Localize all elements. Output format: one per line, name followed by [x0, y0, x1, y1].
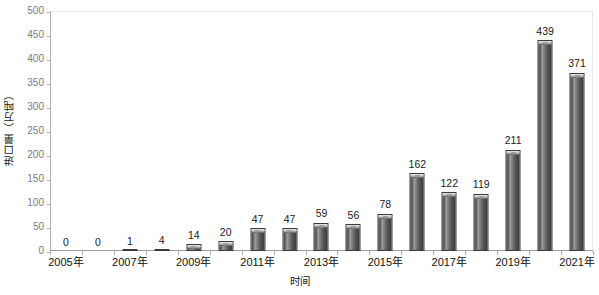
- y-axis-tick-label: 100: [27, 198, 44, 208]
- bar-value-label: 371: [568, 58, 586, 69]
- bar[interactable]: [538, 40, 553, 251]
- y-axis-tick-label: 450: [27, 30, 44, 40]
- bar-value-label: 47: [284, 214, 296, 225]
- bar[interactable]: [282, 228, 297, 251]
- bar-cap-notch-icon: [191, 246, 197, 249]
- bar-cap-notch-icon: [542, 42, 548, 45]
- bar[interactable]: [186, 244, 201, 251]
- bar-cap-notch-icon: [510, 152, 516, 155]
- x-axis-tick-mark: [497, 251, 498, 255]
- bar[interactable]: [250, 228, 265, 251]
- bar-top-cap: [347, 225, 360, 229]
- bar-slot: 119: [465, 11, 497, 251]
- bar-slot: 59: [306, 11, 338, 251]
- bar-value-label: 47: [252, 214, 264, 225]
- x-axis-tick-mark: [178, 251, 179, 255]
- bar-slot: 371: [561, 11, 593, 251]
- x-axis-tick-mark: [210, 251, 211, 255]
- bar-value-label: 20: [220, 227, 232, 238]
- bar-slot: 0: [82, 11, 114, 251]
- bar-top-cap: [475, 195, 488, 199]
- x-axis-tick-mark: [50, 251, 51, 255]
- bar-value-label: 0: [63, 237, 69, 248]
- bar-value-label: 122: [440, 178, 458, 189]
- x-axis-tick-label: 2013年: [304, 257, 339, 268]
- bar-value-label: 56: [348, 210, 360, 221]
- y-axis-tick-label: 350: [27, 78, 44, 88]
- x-axis-tick-mark: [401, 251, 402, 255]
- bar[interactable]: [474, 194, 489, 251]
- bar-cap-notch-icon: [414, 175, 420, 178]
- bar-top-cap: [251, 229, 264, 233]
- bar-cap-notch-icon: [446, 194, 452, 197]
- bar-value-label: 14: [188, 230, 200, 241]
- bar-cap-notch-icon: [350, 226, 356, 229]
- x-axis-tick-label: 2021年: [559, 257, 594, 268]
- bar-slot: 122: [433, 11, 465, 251]
- bar[interactable]: [378, 214, 393, 251]
- x-axis-tick-label: 2017年: [432, 257, 467, 268]
- x-axis-tick-mark: [561, 251, 562, 255]
- bar[interactable]: [442, 192, 457, 251]
- bar-cap-notch-icon: [287, 230, 293, 233]
- y-axis-tick-label: 400: [27, 54, 44, 64]
- y-axis-tick-label: 150: [27, 174, 44, 184]
- bar-top-cap: [315, 224, 328, 228]
- bar-value-label: 4: [159, 235, 165, 246]
- bar-slot: 20: [210, 11, 242, 251]
- x-axis-tick-mark: [465, 251, 466, 255]
- bar-value-label: 211: [505, 135, 522, 146]
- bar-chart: 进口量（万吨） 050100150200250300350400450500 0…: [0, 0, 599, 295]
- bar-top-cap: [283, 229, 296, 233]
- bar-slot: 162: [401, 11, 433, 251]
- bar[interactable]: [314, 223, 329, 251]
- x-axis-tick-mark: [433, 251, 434, 255]
- bar-cap-notch-icon: [382, 216, 388, 219]
- bar-value-label: 78: [380, 199, 392, 210]
- bar-top-cap: [187, 245, 200, 249]
- x-axis-tick-mark: [529, 251, 530, 255]
- bar-cap-notch-icon: [223, 243, 229, 246]
- x-axis-tick-mark: [242, 251, 243, 255]
- bar[interactable]: [346, 224, 361, 251]
- bar-cap-notch-icon: [255, 230, 261, 233]
- x-axis-tick-mark: [114, 251, 115, 255]
- bar-top-cap: [507, 151, 520, 155]
- y-axis-tick-label: 0: [38, 246, 44, 256]
- bar-slot: 4: [146, 11, 178, 251]
- x-axis-tick-mark: [146, 251, 147, 255]
- bar-value-label: 439: [536, 26, 554, 37]
- bar-top-cap: [443, 193, 456, 197]
- bar[interactable]: [218, 241, 233, 251]
- x-axis-tick-label: 2019年: [495, 257, 530, 268]
- bar-value-label: 119: [473, 179, 490, 190]
- y-axis-tick-label: 200: [27, 150, 44, 160]
- bar-slot: 439: [529, 11, 561, 251]
- x-axis-tick-mark: [337, 251, 338, 255]
- x-axis-tick-label: 2011年: [240, 257, 275, 268]
- bar-top-cap: [539, 41, 552, 45]
- bar-top-cap: [219, 242, 232, 246]
- bar-value-label: 59: [316, 208, 328, 219]
- bar[interactable]: [410, 173, 425, 251]
- bar-value-label: 0: [95, 237, 101, 248]
- y-axis-tick-label: 300: [27, 102, 44, 112]
- bar[interactable]: [570, 73, 585, 251]
- y-axis-title: 进口量（万吨）: [0, 0, 18, 255]
- bar-slot: 78: [369, 11, 401, 251]
- bar-slot: 14: [178, 11, 210, 251]
- bar-top-cap: [411, 174, 424, 178]
- x-axis-title: 时间: [0, 276, 599, 287]
- bar-value-label: 162: [409, 159, 427, 170]
- bar-cap-notch-icon: [318, 225, 324, 228]
- bar-top-cap: [379, 215, 392, 219]
- bar-slot: 47: [274, 11, 306, 251]
- y-axis-tick-label: 250: [27, 126, 44, 136]
- bars-layer: 001414204747595678162122119211439371: [50, 11, 593, 251]
- bar-slot: 0: [50, 11, 82, 251]
- bar-slot: 1: [114, 11, 146, 251]
- bar[interactable]: [506, 150, 521, 251]
- x-axis-tick-label: 2015年: [368, 257, 403, 268]
- x-axis-tick-mark: [274, 251, 275, 255]
- x-axis-tick-mark: [593, 251, 594, 255]
